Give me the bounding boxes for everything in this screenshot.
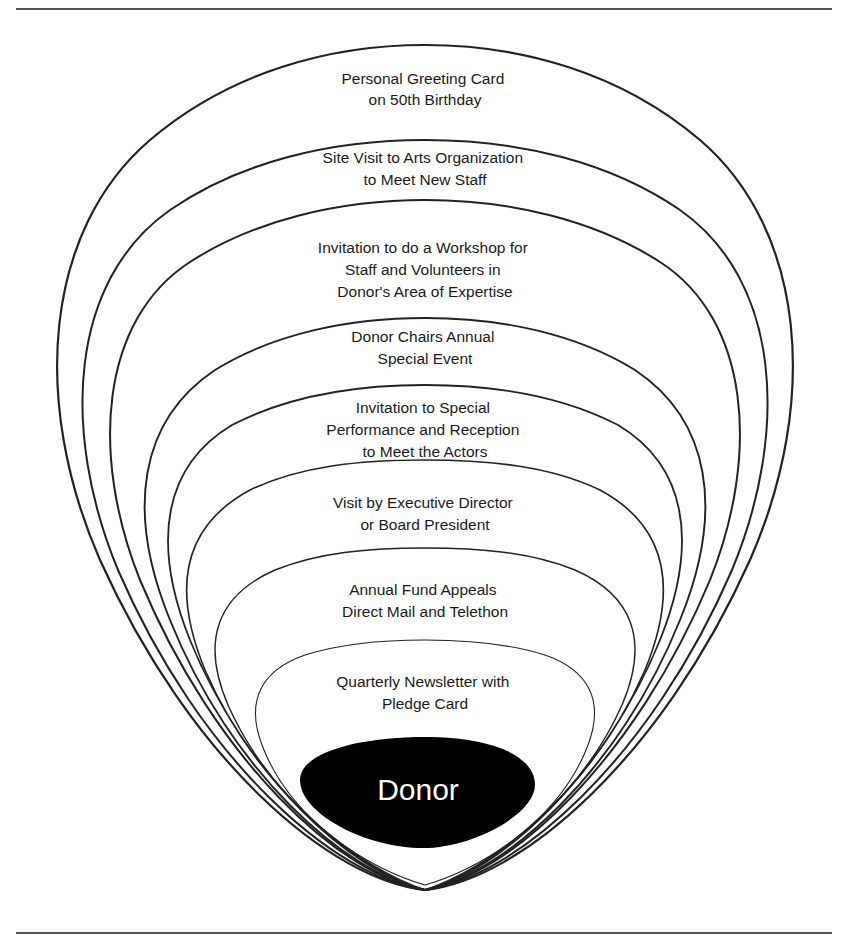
ring-5-label: Invitation to Special Performance and Re… xyxy=(326,399,523,460)
ring-8-label: Quarterly Newsletter with Pledge Card xyxy=(336,673,513,712)
ring-4-label: Donor Chairs Annual Special Event xyxy=(351,328,498,367)
ring-6-label: Visit by Executive Director or Board Pre… xyxy=(333,494,517,533)
ring-3-label: Invitation to do a Workshop for Staff an… xyxy=(318,239,532,300)
donor-cultivation-diagram: Personal Greeting Card on 50th Birthday … xyxy=(0,0,850,952)
ring-7-label: Annual Fund Appeals Direct Mail and Tele… xyxy=(342,581,508,620)
ring-1-label: Personal Greeting Card on 50th Birthday xyxy=(341,70,508,108)
ring-2-label: Site Visit to Arts Organization to Meet … xyxy=(323,149,528,188)
donor-label: Donor xyxy=(377,773,459,806)
